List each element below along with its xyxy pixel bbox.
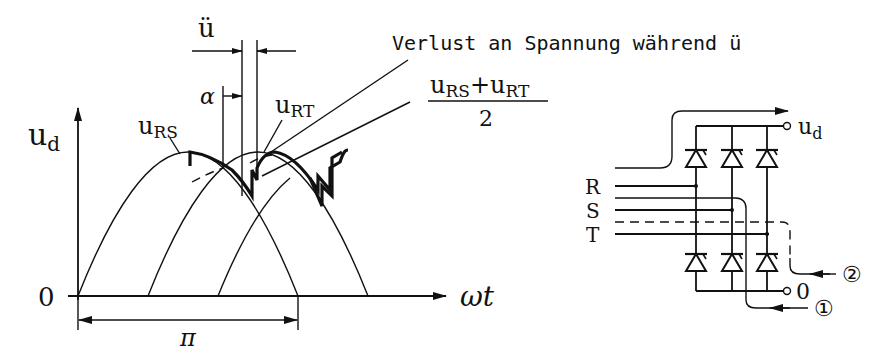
bridge-rectifier-circuit: ud (585, 111, 862, 321)
diode-upper-t (756, 150, 778, 167)
voltage-loss-text: Verlust an Spannung während ü (392, 31, 741, 55)
origin-label: 0 (38, 282, 55, 312)
waveform-plot: ud ωt 0 uRS uRT ü α π (28, 13, 495, 352)
phase-label-s: S (586, 199, 600, 223)
output-label: ud (798, 114, 822, 143)
phase-label-t: T (586, 223, 600, 247)
annotations: Verlust an Spannung während ü uRS+uRT 2 (392, 31, 741, 131)
firing-angle-label: α (200, 84, 215, 109)
overlap-label: ü (198, 13, 215, 43)
label-u-rt: uRT (275, 91, 315, 121)
y-axis-label: ud (28, 117, 60, 156)
path-1-label: ① (814, 296, 834, 321)
label-u-rs: uRS (138, 112, 178, 142)
current-path-2-solid (790, 258, 830, 274)
zero-terminal (784, 288, 791, 295)
output-terminal (784, 123, 791, 130)
period-label: π (179, 324, 197, 352)
diode-lower-s (721, 254, 743, 271)
zero-label: 0 (796, 279, 810, 304)
rectifier-commutation-diagram: ud ωt 0 uRS uRT ü α π (0, 0, 892, 356)
diode-lower-r (685, 254, 707, 271)
output-voltage-notch-2 (310, 152, 342, 206)
current-path-2 (615, 222, 790, 258)
diode-upper-r (685, 150, 707, 167)
path-2-label: ② (842, 262, 862, 287)
curve-u-rs (78, 152, 298, 296)
diode-upper-s (721, 150, 743, 167)
average-denominator: 2 (479, 106, 493, 131)
x-axis-label: ωt (460, 280, 495, 313)
phase-label-r: R (585, 175, 601, 199)
curve-third-phase (218, 178, 290, 296)
diode-lower-t (756, 254, 778, 271)
curve-average-dashed (192, 168, 224, 182)
average-numerator: uRS+uRT (430, 71, 530, 101)
